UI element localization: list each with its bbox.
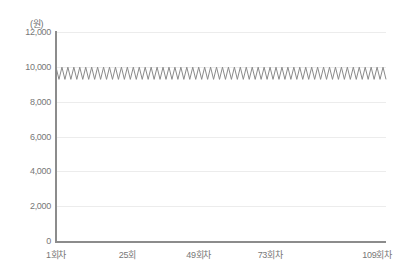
x-tick-label: 25회 xyxy=(119,248,136,261)
series-line xyxy=(56,32,386,241)
x-tick-label: 109회차 xyxy=(362,248,392,261)
y-tick-label: 6,000 xyxy=(3,132,51,142)
x-tick-label: 1회차 xyxy=(46,248,66,261)
series-polyline xyxy=(56,67,386,79)
y-tick-label: 2,000 xyxy=(3,201,51,211)
x-axis-line xyxy=(55,241,386,243)
x-tick-label: 73회차 xyxy=(258,248,283,261)
y-tick-label: 0 xyxy=(3,236,51,246)
line-chart: (원) 02,0004,0006,0008,00010,00012,000 1회… xyxy=(0,0,405,277)
y-tick-label: 8,000 xyxy=(3,97,51,107)
y-tick-label: 4,000 xyxy=(3,166,51,176)
y-tick-label: 12,000 xyxy=(3,27,51,37)
y-tick-label: 10,000 xyxy=(3,62,51,72)
y-axis-tick-labels: 02,0004,0006,0008,00010,00012,000 xyxy=(0,0,51,277)
x-tick-label: 49회차 xyxy=(186,248,211,261)
